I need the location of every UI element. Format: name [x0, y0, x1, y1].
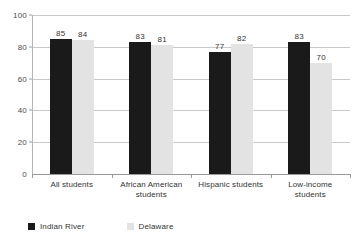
legend-label: Indian River — [40, 222, 85, 231]
bar-value-label: 82 — [237, 35, 246, 43]
legend-label: Delaware — [139, 222, 174, 231]
bar-indian-river-hispanic-students[interactable]: 77 — [209, 52, 231, 174]
x-axis-label-african-american-students: African American students — [112, 180, 192, 200]
x-axis-label-line: Low-income — [273, 180, 349, 190]
x-axis-label-line: students — [114, 190, 190, 200]
x-axis-tick-0 — [32, 174, 33, 178]
x-axis-tick-4 — [350, 174, 351, 178]
legend-swatch-icon — [28, 223, 35, 230]
y-tick-label-60: 60 — [18, 74, 32, 83]
bar-delaware-african-american-students[interactable]: 81 — [151, 45, 173, 174]
bar-value-label: 81 — [158, 36, 167, 44]
bar-group-all-students: 85 84 — [32, 15, 112, 174]
legend-swatch-icon — [127, 223, 134, 230]
bar-value-label: 83 — [136, 33, 145, 41]
bar-groups: 85 84 83 81 77 — [32, 15, 350, 174]
bar-delaware-all-students[interactable]: 84 — [72, 40, 94, 174]
bar-indian-river-low-income-students[interactable]: 83 — [288, 42, 310, 174]
y-tick-label-40: 40 — [18, 106, 32, 115]
bar-indian-river-all-students[interactable]: 85 — [50, 39, 72, 174]
x-axis-tick-3 — [271, 174, 272, 178]
bar-indian-river-african-american-students[interactable]: 83 — [129, 42, 151, 174]
bar-value-label: 77 — [215, 43, 224, 51]
bar-value-label: 70 — [317, 54, 326, 62]
bar-group-hispanic-students: 77 82 — [191, 15, 271, 174]
bar-chart: 100 80 60 40 20 0 85 — [0, 0, 358, 245]
x-axis-label-line: African American — [114, 180, 190, 190]
x-axis-category-labels: All students African American students H… — [32, 180, 350, 200]
y-tick-label-100: 100 — [13, 11, 32, 20]
y-tick-label-20: 20 — [18, 138, 32, 147]
x-axis-label-hispanic-students: Hispanic students — [191, 180, 271, 200]
bar-delaware-low-income-students[interactable]: 70 — [310, 63, 332, 174]
bar-group-african-american-students: 83 81 — [112, 15, 192, 174]
x-axis-label-all-students: All students — [32, 180, 112, 200]
x-axis-label-low-income-students: Low-income students — [271, 180, 351, 200]
bar-value-label: 83 — [295, 33, 304, 41]
y-tick-label-80: 80 — [18, 42, 32, 51]
legend-item-indian-river[interactable]: Indian River — [28, 222, 85, 231]
x-axis-label-line: All students — [34, 180, 110, 190]
bar-delaware-hispanic-students[interactable]: 82 — [231, 44, 253, 174]
y-tick-label-0: 0 — [22, 170, 32, 179]
bar-group-low-income-students: 83 70 — [271, 15, 351, 174]
x-axis-label-line: Hispanic students — [193, 180, 269, 190]
chart-legend: Indian River Delaware — [28, 222, 174, 231]
x-axis-tick-1 — [112, 174, 113, 178]
x-axis-tick-2 — [191, 174, 192, 178]
bar-value-label: 85 — [56, 30, 65, 38]
x-axis-label-line: students — [273, 190, 349, 200]
legend-item-delaware[interactable]: Delaware — [127, 222, 174, 231]
bar-value-label: 84 — [78, 31, 87, 39]
